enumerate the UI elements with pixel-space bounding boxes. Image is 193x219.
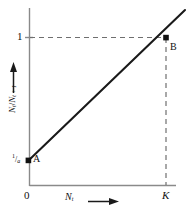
- x-max-tick-label-K: K: [162, 190, 169, 201]
- y-axis-numerator-symbol: N: [7, 107, 17, 113]
- y-axis-denominator-symbol: N: [7, 97, 17, 103]
- y-axis-denominator-subscript: t + 1: [11, 85, 17, 97]
- data-point-b-marker: [163, 35, 169, 41]
- x-axis-label: Nt: [65, 192, 73, 202]
- point-a-label: A: [33, 154, 40, 164]
- ratio-line: [28, 10, 185, 161]
- x-axis-label-symbol: N: [65, 191, 72, 202]
- figure-canvas: 1 1/a A B 0 K Nt Nt/Nt + 1: [0, 0, 193, 219]
- point-b-label: B: [170, 42, 177, 52]
- plot-svg: [0, 0, 193, 219]
- origin-label: 0: [24, 190, 30, 201]
- y-intercept-label: 1/a: [12, 153, 20, 164]
- data-point-a-marker: [26, 158, 32, 164]
- x-axis-arrow-icon: [88, 198, 119, 205]
- y-axis-numerator-subscript: t: [11, 105, 17, 107]
- y-tick-label-one: 1: [17, 31, 23, 42]
- y-axis-label-slash: /: [7, 103, 17, 106]
- intercept-denominator: a: [17, 158, 20, 164]
- y-axis-label: Nt/Nt + 1: [7, 69, 17, 129]
- x-axis-label-subscript: t: [72, 196, 74, 202]
